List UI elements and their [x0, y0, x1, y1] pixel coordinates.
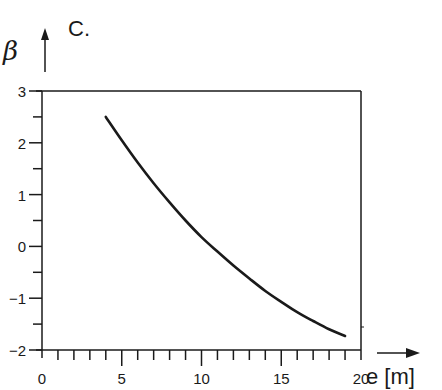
x-arrow-icon — [406, 348, 420, 358]
data-curve — [106, 117, 345, 336]
y-tick-label: −2 — [9, 342, 26, 359]
y-tick-label: −1 — [9, 290, 26, 307]
x-tick-label: 5 — [118, 370, 126, 387]
y-tick-label: 0 — [18, 238, 26, 255]
y-tick-label: 1 — [18, 187, 26, 204]
x-tick-label: 10 — [193, 370, 210, 387]
x-tick-label: 20 — [353, 370, 370, 387]
y-tick-label: 3 — [18, 83, 26, 100]
y-tick-label: 2 — [18, 135, 26, 152]
y-arrow-icon — [41, 28, 49, 40]
x-tick-label: 15 — [273, 370, 290, 387]
x-tick-label: 0 — [38, 370, 46, 387]
line-chart: 3210−1−205101520 — [0, 0, 442, 390]
